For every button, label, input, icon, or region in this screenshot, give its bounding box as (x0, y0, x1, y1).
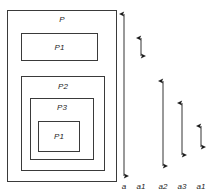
box-p1-top: P1 (21, 33, 98, 61)
axis-label-a2: a2 (159, 182, 168, 191)
axis-label-a: a (122, 182, 126, 191)
axis-label-a1-inner: a1 (197, 182, 206, 191)
box-label-p2: P2 (22, 82, 104, 91)
axis-label-a3: a3 (178, 182, 187, 191)
diagram-canvas: P P1 P2 P3 P1 a a1 (0, 0, 220, 195)
axis-label-a1-top: a1 (137, 182, 146, 191)
box-label-p1-top: P1 (22, 43, 97, 52)
box-label-p1-inner: P1 (39, 132, 79, 141)
box-p1-inner: P1 (38, 121, 80, 152)
box-label-p: P (8, 15, 116, 24)
box-label-p3: P3 (31, 103, 93, 112)
